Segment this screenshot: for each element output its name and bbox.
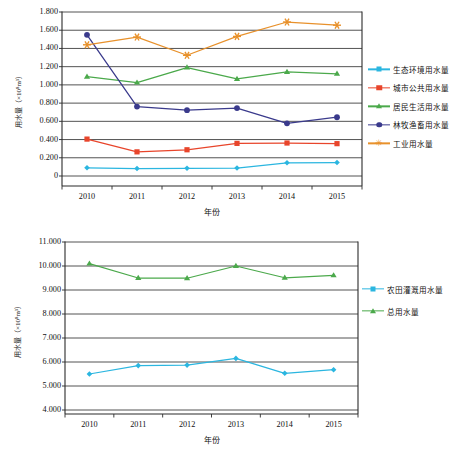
legend-label: 林牧渔畜用水量 [393,119,449,130]
top-x-tick: 2011 [129,192,145,201]
legend-item-工业用水量[interactable]: ✳工业用水量 [368,134,449,153]
legend-label: 农田灌溉用水量 [387,284,443,295]
bot-x-tick: 2012 [179,420,195,429]
legend-marker-triangle-icon [368,100,390,112]
legend-item-林牧渔畜用水量[interactable]: 林牧渔畜用水量 [368,116,449,135]
water-usage-by-sector-chart: 用水量（×10⁸m³） 00.2000.4000.6000.8001.0001.… [0,0,457,230]
top-x-tick: 2010 [79,192,95,201]
legend-label: 总用水量 [387,306,419,317]
legend-item-农田灌溉用水量[interactable]: 农田灌溉用水量 [362,278,443,300]
bot-x-tick: 2015 [325,420,341,429]
legend-item-城市公共用水量[interactable]: 城市公共用水量 [368,79,449,98]
bottom-chart-legend: 农田灌溉用水量总用水量 [362,278,443,322]
bot-x-tick: 2014 [277,420,293,429]
legend-label: 居民生活用水量 [393,101,449,112]
top-x-tick: 2013 [229,192,245,201]
legend-marker-diamond-icon [368,63,390,75]
legend-marker-star-icon: ✳ [368,137,390,149]
legend-item-总用水量[interactable]: 总用水量 [362,300,443,322]
bottom-chart-plot-area [48,234,378,449]
top-chart-x-axis-title: 年份 [204,206,220,217]
chart-page: 用水量（×10⁸m³） 00.2000.4000.6000.8001.0001.… [0,0,457,465]
legend-item-生态环境用水量[interactable]: 生态环境用水量 [368,60,449,79]
bottom-chart-x-axis-title: 年份 [204,434,220,445]
top-chart-plot-area [45,4,385,214]
top-x-tick: 2015 [329,192,345,201]
bot-x-tick: 2013 [228,420,244,429]
legend-marker-diamond-icon [362,283,384,295]
legend-label: 生态环境用水量 [393,64,449,75]
total-water-usage-chart: 用水量（×10⁸m³） 4.0005.0006.0007.0008.0009.0… [0,230,457,465]
bot-x-tick: 2010 [81,420,97,429]
top-x-tick: 2012 [179,192,195,201]
legend-label: 工业用水量 [393,138,433,149]
legend-marker-square-icon [368,82,390,94]
top-x-tick: 2014 [279,192,295,201]
legend-item-居民生活用水量[interactable]: 居民生活用水量 [368,97,449,116]
legend-marker-triangle-icon [362,305,384,317]
legend-marker-circle-icon [368,119,390,131]
top-chart-legend: 生态环境用水量城市公共用水量居民生活用水量林牧渔畜用水量✳工业用水量 [368,60,449,153]
bot-x-tick: 2011 [130,420,146,429]
legend-label: 城市公共用水量 [393,82,449,93]
